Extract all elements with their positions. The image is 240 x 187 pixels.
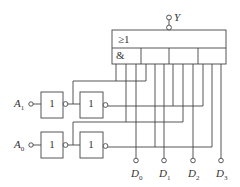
inverter-a1-1-label: 1 <box>48 98 56 109</box>
circuit-wiring <box>0 0 240 187</box>
inverter-a1-2-label: 1 <box>87 98 95 109</box>
and-symbol: & <box>116 50 125 61</box>
logic-diagram: ≥1 & 1 1 1 1 Y A1 A0 D0 D1 D2 D3 <box>0 0 240 187</box>
input-d2-label: D2 <box>188 168 199 182</box>
input-a1-label: A1 <box>14 98 24 112</box>
output-y-terminal <box>167 15 172 30</box>
a0-inverter-chain <box>29 122 212 158</box>
data-input-terminals <box>134 158 224 163</box>
inverter-a0-2-label: 1 <box>87 139 95 150</box>
input-a0-label: A0 <box>14 139 24 153</box>
input-d0-label: D0 <box>131 168 142 182</box>
input-d3-label: D3 <box>216 168 227 182</box>
input-d1-label: D1 <box>159 168 170 182</box>
output-y-label: Y <box>174 12 180 23</box>
inverter-a0-1-label: 1 <box>48 139 56 150</box>
and-input-wires <box>116 64 221 158</box>
or-symbol: ≥1 <box>118 34 130 45</box>
